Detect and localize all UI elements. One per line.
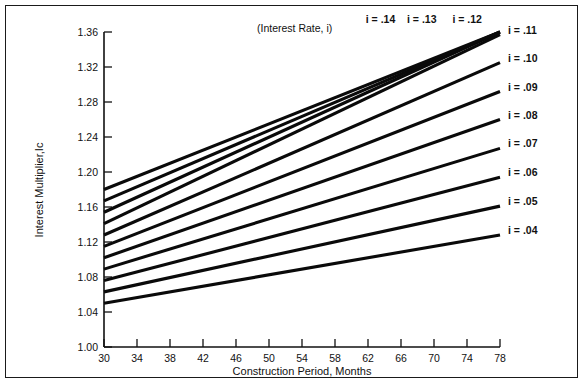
series-line-08 xyxy=(104,120,500,258)
series-line-11 xyxy=(104,35,500,224)
chart-canvas: 1.001.041.081.121.161.201.241.281.321.36… xyxy=(0,0,585,390)
interest-rate-note: (Interest Rate, i) xyxy=(257,22,332,34)
series-label-04: i = .04 xyxy=(508,224,538,236)
series-label-13: i = .13 xyxy=(407,13,437,25)
x-tick-label: 38 xyxy=(164,352,176,364)
x-tick-label: 46 xyxy=(230,352,242,364)
series-label-07: i = .07 xyxy=(508,137,538,149)
series-lines xyxy=(104,32,500,303)
y-tick-label: 1.12 xyxy=(78,236,99,248)
y-tick-label: 1.16 xyxy=(78,201,99,213)
x-tick-label: 34 xyxy=(131,352,143,364)
series-label-06: i = .06 xyxy=(508,166,538,178)
x-axis-ticks: 30343842465054586266707478 xyxy=(98,339,506,364)
y-tick-label: 1.08 xyxy=(78,271,99,283)
series-label-09: i = .09 xyxy=(508,81,538,93)
y-tick-label: 1.04 xyxy=(78,306,99,318)
series-line-04 xyxy=(104,235,500,303)
x-tick-label: 74 xyxy=(461,352,473,364)
x-tick-label: 66 xyxy=(395,352,407,364)
x-tick-label: 58 xyxy=(329,352,341,364)
series-line-09 xyxy=(104,92,500,247)
series-label-12: i = .12 xyxy=(452,13,482,25)
series-line-13 xyxy=(104,32,500,201)
series-labels: i = .04i = .05i = .06i = .07i = .08i = .… xyxy=(366,13,538,236)
series-label-10: i = .10 xyxy=(508,52,538,64)
y-tick-label: 1.32 xyxy=(78,61,99,73)
series-label-14: i = .14 xyxy=(366,13,396,25)
y-axis-title: Interest Multiplier,Ic xyxy=(33,142,45,237)
x-tick-label: 30 xyxy=(98,352,110,364)
x-tick-label: 54 xyxy=(296,352,308,364)
x-tick-label: 42 xyxy=(197,352,209,364)
series-label-05: i = .05 xyxy=(508,195,538,207)
x-tick-label: 78 xyxy=(494,352,506,364)
x-tick-label: 70 xyxy=(428,352,440,364)
series-line-12 xyxy=(104,32,500,212)
x-tick-label: 50 xyxy=(263,352,275,364)
y-tick-label: 1.00 xyxy=(78,341,99,353)
y-tick-label: 1.24 xyxy=(78,131,99,143)
series-line-06 xyxy=(104,177,500,280)
series-label-08: i = .08 xyxy=(508,109,538,121)
y-tick-label: 1.28 xyxy=(78,96,99,108)
series-label-11: i = .11 xyxy=(508,24,537,36)
y-tick-label: 1.20 xyxy=(78,166,99,178)
x-tick-label: 62 xyxy=(362,352,374,364)
y-tick-label: 1.36 xyxy=(78,26,99,38)
x-axis-title: Construction Period, Months xyxy=(233,365,372,377)
series-line-05 xyxy=(104,206,500,292)
